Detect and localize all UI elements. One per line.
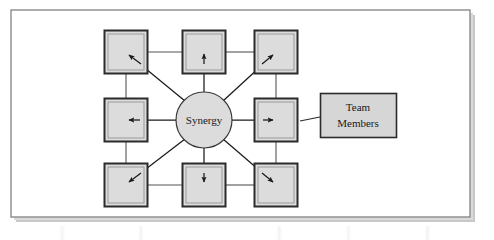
member-node-bottom-center[interactable] (183, 164, 226, 207)
team-members-label-line-1: Team (346, 101, 371, 113)
member-node-top-right[interactable] (255, 31, 298, 74)
diagram-page: Synergy Team Members (0, 0, 494, 240)
synergy-center-node[interactable]: Synergy (176, 92, 232, 148)
member-node-bottom-right[interactable] (255, 164, 298, 207)
member-node-top-center[interactable] (183, 31, 226, 74)
member-node-middle-left[interactable] (105, 99, 148, 142)
team-members-label-line-2: Members (337, 117, 379, 129)
member-node-middle-right[interactable] (255, 99, 298, 142)
member-node-top-left[interactable] (105, 31, 148, 74)
synergy-diagram-figure: Synergy Team Members (0, 0, 494, 240)
diagram-frame (11, 10, 470, 217)
synergy-label: Synergy (186, 114, 223, 126)
member-node-bottom-left[interactable] (105, 164, 148, 207)
team-members-callout[interactable]: Team Members (321, 94, 397, 138)
